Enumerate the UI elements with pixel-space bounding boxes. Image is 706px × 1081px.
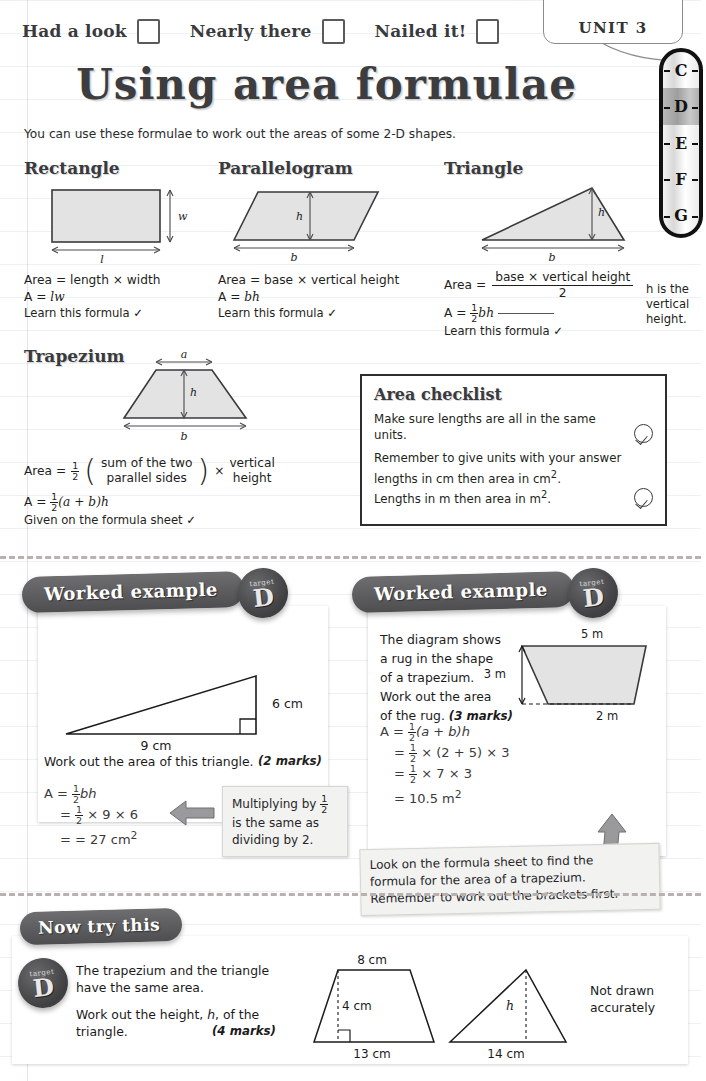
worked-example-1-triangle-diagram: 6 cm 9 cm [44, 624, 314, 742]
working-line: = 12 × (2 + 5) × 3 [380, 743, 600, 764]
intro-text: You can use these formulae to work out t… [24, 127, 624, 141]
shape-title: Parallelogram [218, 158, 438, 178]
height-label: 6 cm [272, 696, 303, 711]
result-value: = 27 cm2 [75, 832, 137, 847]
checklist-item: Remember to give units with your answerl… [374, 451, 653, 507]
worked-example-2-banner: Worked example [352, 574, 574, 610]
now-try-this-triangle-diagram: h 14 cm [440, 952, 600, 1062]
trapezium-area-words: Area = 12 ( sum of the two parallel side… [24, 456, 354, 486]
note-line-2: accurately [590, 999, 690, 1016]
checklist-item: Make sure lengths are all in the same un… [374, 412, 653, 443]
note-line-1: Not drawn [590, 982, 690, 999]
target-grade: D [252, 585, 275, 608]
checklist-text: Remember to give units with your answerl… [374, 451, 628, 507]
progress-label: Had a look [22, 21, 127, 41]
trapezium-diagram: a b h [94, 350, 344, 436]
unit-tab: UNIT 3 [543, 0, 683, 44]
working-line: = 10.5 m2 [380, 785, 600, 808]
rectangle-width-label: w [178, 210, 188, 223]
rectangle-length-label: l [100, 253, 104, 266]
not-drawn-accurately-note: Not drawn accurately [590, 982, 690, 1016]
now-try-this-question: The trapezium and the triangle have the … [76, 962, 276, 1040]
working-line: = = 27 cm2 [44, 826, 244, 849]
hint-line-1: Multiplying by [232, 797, 316, 811]
grade-d-current: D [663, 88, 699, 124]
question-line-1: The trapezium and the triangle have the … [76, 962, 276, 996]
parallelogram-diagram: b h [218, 178, 428, 258]
parallelogram-note: Learn this formula ✓ [218, 306, 438, 320]
checkbox-had-a-look[interactable] [137, 19, 160, 44]
question-line: of a trapezium. [380, 668, 530, 687]
parallelogram-formula: A = bh [218, 289, 438, 306]
checklist-text: Make sure lengths are all in the same un… [374, 412, 628, 443]
trapezium-formula: A = 12(a + b)h [24, 492, 354, 513]
parallelogram-height-label: h [296, 210, 303, 223]
target-grade: D [32, 975, 55, 998]
worked-example-2-question: The diagram shows a rug in the shape of … [380, 630, 530, 726]
worked-example-1-banner: Worked example [22, 574, 244, 610]
progress-label: Nearly there [190, 21, 312, 41]
progress-label: Nailed it! [375, 21, 467, 41]
banner-label: Worked example [22, 571, 245, 613]
hint-line-2: is the same as [232, 816, 319, 830]
shape-title: Rectangle [24, 158, 214, 178]
shape-title: Triangle [444, 158, 694, 178]
trapezium-a-label: a [181, 348, 188, 361]
marks-label: (3 marks) [449, 709, 513, 723]
trapezium-b-label: b [180, 430, 187, 443]
triangle-height-label: h [598, 206, 605, 219]
trapezium-note: Given on the formula sheet ✓ [24, 513, 354, 527]
rectangle-area-words: Area = length × width [24, 272, 214, 289]
question-text: Work out the area of this triangle. [44, 754, 254, 770]
question-line: Work out the area [380, 687, 530, 706]
grade-e: E [663, 125, 699, 161]
shape-parallelogram: Parallelogram b h Area = base × vertical… [218, 158, 438, 320]
result-value: = 10.5 m2 [394, 791, 462, 806]
trapezium-bottom-label: 13 cm [353, 1047, 390, 1061]
working-line: = 12 × 7 × 3 [380, 764, 600, 785]
checkbox-nailed-it[interactable] [476, 19, 499, 44]
marks-label: (2 marks) [258, 754, 322, 770]
hint-line-3: dividing by 2. [232, 833, 313, 847]
grade-f: F [663, 161, 699, 197]
section-separator-1 [0, 556, 701, 559]
question-line: a rug in the shape [380, 649, 530, 668]
question-line-2: Work out the height, h, of the triangle.… [76, 1006, 276, 1040]
bottom-label: 2 m [596, 709, 618, 723]
base-label: 9 cm [141, 738, 172, 753]
section-separator-2 [0, 893, 701, 896]
banner-label: Now try this [20, 908, 183, 946]
worked-example-2-trapezium-diagram: 5 m 3 m 2 m [510, 626, 670, 736]
question-line: The diagram shows [380, 630, 530, 649]
parallelogram-area-words: Area = base × vertical height [218, 272, 438, 289]
working-line: A = 12(a + b)h [380, 722, 600, 743]
rectangle-diagram: l w [24, 178, 204, 258]
rectangle-note: Learn this formula ✓ [24, 306, 214, 320]
progress-nailed-it[interactable]: Nailed it! [375, 19, 500, 44]
unit-tab-label: UNIT 3 [578, 19, 647, 37]
triangle-base-label: 14 cm [487, 1047, 524, 1061]
rectangle-formula: A = lw [24, 289, 214, 306]
target-grade: D [582, 585, 605, 608]
page-title: Using area formulae [0, 60, 701, 109]
checkbox-nearly-there[interactable] [322, 19, 345, 44]
banner-label: Worked example [352, 571, 575, 613]
worked-example-1-hint: Multiplying by 12 is the same as dividin… [222, 786, 348, 857]
marks-label: (4 marks) [212, 1023, 276, 1040]
now-try-this-banner: Now try this [20, 910, 182, 943]
progress-had-a-look[interactable]: Had a look [22, 19, 160, 44]
area-checklist-box: Area checklist Make sure lengths are all… [360, 374, 667, 526]
trapezium-top-label: 8 cm [357, 953, 387, 967]
worked-example-1-question-row: Work out the area of this triangle. (2 m… [44, 754, 322, 770]
arrow-left-icon [168, 798, 216, 828]
shape-trapezium: Trapezium a b h Area = 12 ( sum of the t… [24, 346, 354, 527]
worked-example-2-working: A = 12(a + b)h = 12 × (2 + 5) × 3 = 12 ×… [380, 722, 600, 808]
grade-g: G [663, 198, 699, 234]
shape-triangle: Triangle b h Area = base × vertical heig… [444, 158, 694, 338]
progress-nearly-there[interactable]: Nearly there [190, 19, 345, 44]
shape-rectangle: Rectangle l w Area = length × width A = … [24, 158, 214, 320]
trapezium-height-label: 4 cm [342, 999, 372, 1013]
tick-circle-icon [634, 488, 653, 507]
top-label: 5 m [581, 627, 603, 641]
triangle-base-label: b [548, 251, 555, 264]
